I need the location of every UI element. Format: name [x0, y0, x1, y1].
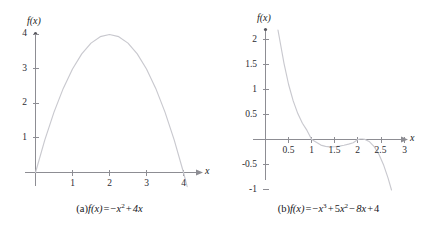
y-tick-label-a-1: 1	[12, 133, 27, 143]
y-tick-label-b-1: 2	[241, 35, 257, 45]
x-tick-label-b-5: 2.5	[369, 146, 392, 156]
x-axis-label-a: x	[205, 166, 209, 176]
y-tick-label-b-6: -1	[238, 185, 257, 195]
y-tick-label-a-4: 4	[12, 29, 27, 39]
caption-a-eq: =	[103, 203, 111, 214]
y-axis-label-a: f(x)	[27, 16, 41, 26]
caption-b-term4-sign: +	[366, 203, 374, 214]
x-tick-label-b-1: 0.5	[277, 146, 300, 156]
y-tick-label-b-3: 1	[241, 85, 257, 95]
y-tick-label-b-4: 0.5	[237, 110, 257, 120]
curve-cubic-b	[278, 30, 392, 190]
x-tick-label-a-2: 2	[99, 179, 120, 189]
caption-b: (b)f(x)=−x3+5x2−8x+4	[219, 203, 438, 215]
x-tick-label-b-2: 1	[301, 146, 322, 156]
caption-b-arg: (x)	[293, 203, 305, 214]
x-tick-label-b-4: 2	[347, 146, 368, 156]
x-axis-label-b: x	[410, 133, 414, 143]
y-axis-cap-dot-b	[264, 28, 267, 31]
chart-panel-a: f(x) x 1 2 3 4 1 2 3 4 (a)f(x)=−x2+4x	[0, 0, 219, 233]
caption-b-term3-sign: −	[348, 203, 356, 214]
plot-b-svg	[219, 0, 438, 200]
caption-b-term3: 8x	[356, 203, 366, 214]
x-tick-label-a-4: 4	[173, 179, 194, 189]
caption-a-term2-sign: +	[125, 203, 133, 214]
figure-container: f(x) x 1 2 3 4 1 2 3 4 (a)f(x)=−x2+4x	[0, 0, 438, 233]
x-tick-label-b-6: 3	[394, 146, 415, 156]
caption-a-prefix: (a)	[76, 203, 88, 214]
caption-b-term4: 4	[374, 203, 379, 214]
caption-a: (a)f(x)=−x2+4x	[0, 203, 219, 215]
x-tick-label-a-3: 3	[136, 179, 157, 189]
plot-a-svg	[0, 0, 219, 200]
caption-b-prefix: (b)	[278, 203, 290, 214]
x-axis-arrow-a	[196, 170, 203, 176]
x-tick-label-b-3: 1.5	[323, 146, 346, 156]
y-tick-label-a-2: 2	[12, 98, 27, 108]
caption-a-arg: (x)	[91, 203, 103, 214]
y-axis-label-b: f(x)	[257, 13, 271, 23]
y-tick-label-b-2: 1.5	[237, 60, 257, 70]
caption-a-term2: 4x	[133, 203, 143, 214]
curve-parabola-a	[36, 35, 188, 187]
y-tick-label-b-5: -0.5	[234, 160, 257, 170]
chart-panel-b: f(x) x 0.5 1 1.5 2 2.5 3 2 1.5 1 0.5 -0.…	[219, 0, 438, 233]
caption-b-term2-sign: +	[327, 203, 335, 214]
y-tick-label-a-3: 3	[12, 64, 27, 74]
x-tick-label-a-1: 1	[62, 179, 83, 189]
